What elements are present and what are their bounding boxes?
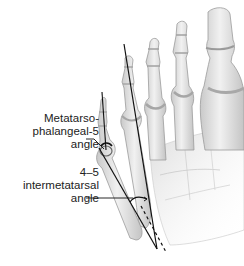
first-ray-bones [200, 8, 244, 150]
mtp5-angle-label: Metatarso- phalangeal-5 angle [32, 112, 99, 151]
im45-angle-label: 4–5 intermetatarsal angle [23, 166, 99, 205]
label-line: 4–5 [23, 166, 99, 179]
label-line: Metatarso- [32, 112, 99, 125]
third-ray-bones [145, 38, 166, 160]
label-line: angle [23, 192, 99, 205]
label-line: angle [32, 138, 99, 151]
second-ray-bones [171, 21, 194, 150]
label-line: intermetatarsal [23, 179, 99, 192]
foot-skeleton-diagram: Metatarso- phalangeal-5 angle 4–5 interm… [0, 0, 244, 266]
label-line: phalangeal-5 [32, 125, 99, 138]
